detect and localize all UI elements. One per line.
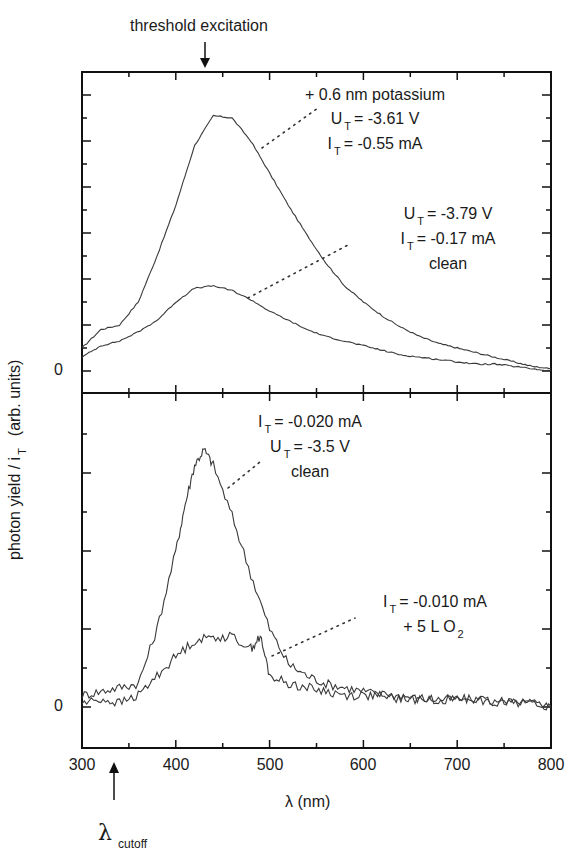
value-current: = -0.010 mA	[399, 593, 487, 610]
value-voltage: = -3.61 V	[354, 110, 419, 127]
x-tick-800: 800	[538, 756, 565, 774]
cutoff-symbol: λ	[98, 820, 112, 845]
value-voltage: = -3.79 V	[427, 205, 492, 222]
x-axis-label: λ (nm)	[285, 793, 330, 811]
subscript-t: T	[390, 603, 397, 615]
annotation-potassium-line3: IT= -0.55 mA	[285, 132, 465, 157]
symbol-i: I	[401, 230, 405, 247]
symbol-i: I	[258, 413, 262, 430]
symbol-i: I	[328, 135, 332, 152]
annotation-clean-lower-line2: UT= -3.5 V	[225, 435, 395, 460]
symbol-i: I	[383, 593, 387, 610]
subscript-t: T	[344, 120, 351, 132]
cutoff-subscript: cutoff	[118, 837, 147, 851]
annotation-clean-upper-line3: clean	[368, 252, 528, 276]
y-axis-label: photon yield / iT (arb. units)	[6, 360, 24, 560]
value-current: = -0.55 mA	[344, 135, 423, 152]
lower-zero-label: 0	[54, 697, 63, 715]
y-axis-label-main: photon yield / i	[6, 457, 23, 560]
annotation-clean-upper-line2: IT= -0.17 mA	[368, 227, 528, 252]
annotation-clean-lower-line1: IT= -0.020 mA	[225, 410, 395, 435]
symbol-u: U	[331, 110, 343, 127]
x-tick-500: 500	[257, 756, 284, 774]
exposure-label: + 5 L O	[403, 618, 455, 635]
threshold-arrow-icon	[200, 42, 210, 68]
annotation-potassium: + 0.6 nm potassium UT= -3.61 V IT= -0.55…	[285, 83, 465, 157]
subscript-t: T	[284, 448, 291, 460]
cutoff-arrow-icon	[109, 762, 119, 800]
subscript-t: T	[417, 215, 424, 227]
upper-zero-label: 0	[54, 361, 63, 379]
value-current: = -0.17 mA	[417, 230, 496, 247]
value-voltage: = -3.5 V	[293, 438, 349, 455]
annotation-clean-upper: UT= -3.79 V IT= -0.17 mA clean	[368, 202, 528, 276]
curve-0-1	[82, 286, 551, 371]
annotation-clean-lower-line3: clean	[225, 460, 395, 484]
subscript-t: T	[334, 145, 341, 157]
x-tick-300: 300	[69, 756, 96, 774]
annotation-clean-lower: IT= -0.020 mA UT= -3.5 V clean	[225, 410, 395, 484]
value-current: = -0.020 mA	[274, 413, 362, 430]
symbol-u: U	[404, 205, 416, 222]
annotation-oxygen-line1: IT= -0.010 mA	[350, 590, 520, 615]
annotation-potassium-line2: UT= -3.61 V	[285, 107, 465, 132]
threshold-label: threshold excitation	[130, 17, 268, 35]
symbol-u: U	[270, 438, 282, 455]
curve-1-0	[82, 449, 551, 710]
annotation-clean-upper-line1: UT= -3.79 V	[368, 202, 528, 227]
y-axis-label-units: (arb. units)	[6, 360, 23, 436]
annotation-leader-lines	[228, 108, 355, 656]
x-tick-700: 700	[444, 756, 471, 774]
annotation-potassium-line1: + 0.6 nm potassium	[285, 83, 465, 107]
annotation-oxygen-line2: + 5 L O2	[350, 615, 520, 640]
subscript-t: T	[407, 240, 414, 252]
x-tick-400: 400	[163, 756, 190, 774]
annotation-oxygen: IT= -0.010 mA + 5 L O2	[350, 590, 520, 640]
subscript-2: 2	[458, 628, 464, 640]
cutoff-label: λcutoff	[98, 820, 150, 845]
subscript-t: T	[265, 423, 272, 435]
y-axis-label-subscript: T	[16, 448, 28, 455]
x-tick-600: 600	[350, 756, 377, 774]
